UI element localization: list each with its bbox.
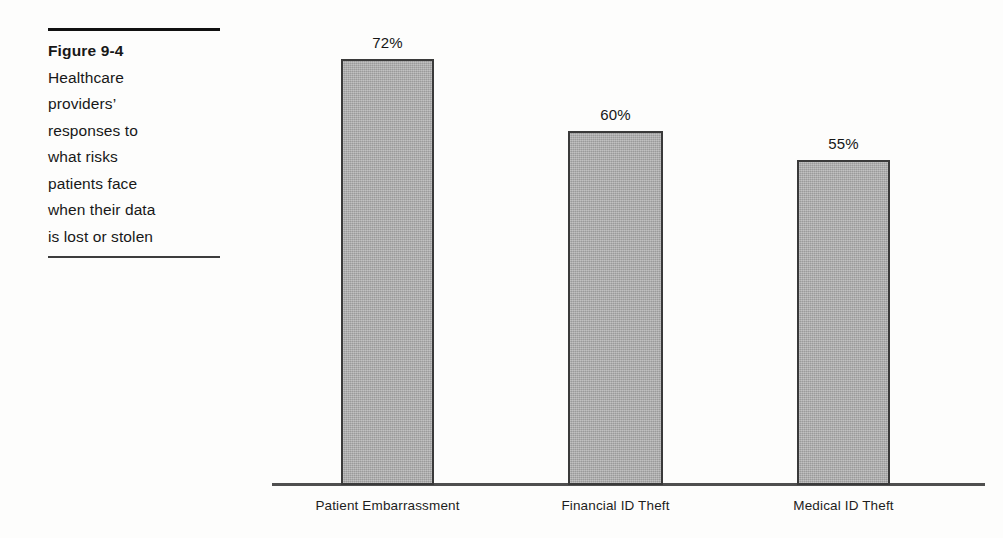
caption-line-6: when their data xyxy=(48,197,220,224)
bar-value-patient-embarrassment: 72% xyxy=(341,34,434,51)
bar-patient-embarrassment xyxy=(341,59,434,485)
bar-financial-id-theft xyxy=(568,131,663,485)
caption-line-2: providers’ xyxy=(48,91,220,118)
bar-label-financial-id-theft: Financial ID Theft xyxy=(504,498,727,513)
caption-text: Figure 9-4 Healthcare providers’ respons… xyxy=(48,38,220,250)
caption-rule-top xyxy=(48,28,220,31)
caption-rule-bottom xyxy=(48,256,220,258)
bar-value-medical-id-theft: 55% xyxy=(797,135,890,152)
caption-line-5: patients face xyxy=(48,171,220,198)
figure-9-4: Figure 9-4 Healthcare providers’ respons… xyxy=(0,0,1003,538)
bar-label-medical-id-theft: Medical ID Theft xyxy=(736,498,951,513)
caption-line-4: what risks xyxy=(48,144,220,171)
figure-caption-block: Figure 9-4 Healthcare providers’ respons… xyxy=(48,28,220,258)
bar-label-patient-embarrassment: Patient Embarrassment xyxy=(266,498,509,513)
caption-line-3: responses to xyxy=(48,118,220,145)
figure-number-label: Figure 9-4 xyxy=(48,38,220,65)
bar-medical-id-theft xyxy=(797,160,890,485)
caption-line-1: Healthcare xyxy=(48,65,220,92)
bar-chart: 72% Patient Embarrassment 60% Financial … xyxy=(272,0,1003,538)
caption-line-7: is lost or stolen xyxy=(48,224,220,251)
bar-value-financial-id-theft: 60% xyxy=(568,106,663,123)
